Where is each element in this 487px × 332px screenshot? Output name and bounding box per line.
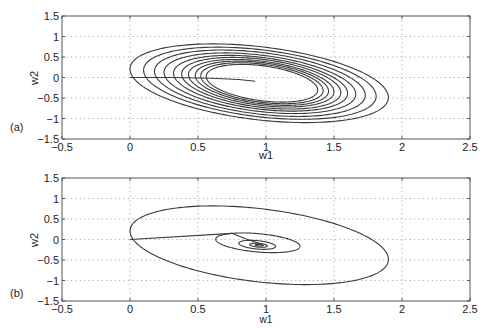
x-tick-label-b: 1	[263, 303, 269, 315]
y-tick-label-b: 0.5	[44, 213, 59, 225]
x-tick-label-a: 0	[127, 141, 133, 153]
y-tick-label-b: 0	[53, 234, 59, 246]
y-tick-label-b: 1	[53, 193, 59, 205]
x-tick-label-b: 0.5	[190, 303, 205, 315]
y-tick-label-b: −0.5	[37, 254, 59, 266]
y-tick-label-b: 1.5	[44, 172, 59, 184]
x-tick-label-a: 1.5	[326, 141, 341, 153]
x-tick-label-a: 2	[399, 141, 405, 153]
trajectory-orbit-9-a	[201, 63, 323, 104]
y-tick-label-a: −1.5	[37, 133, 59, 145]
panel-label-b: (b)	[10, 287, 23, 299]
x-tick-label-b: 2.5	[462, 303, 477, 315]
trajectory-orbit-5-b	[255, 244, 263, 246]
x-tick-label-b: 1.5	[326, 303, 341, 315]
trajectory-orbit-10-a	[206, 64, 318, 102]
figure: (a) w1 w2 −0.500.511.522.51.510.50−0.5−1…	[0, 0, 487, 332]
plot-b: (b) w1 w2 −0.500.511.522.51.510.50−0.5−1…	[10, 172, 478, 325]
trajectory-orbit-4-b	[250, 243, 268, 247]
x-tick-label-b: 2	[399, 303, 405, 315]
x-axis-label-b: w1	[259, 314, 273, 325]
x-tick-label-b: 0	[127, 303, 133, 315]
trajectory-orbit-3-a	[154, 50, 365, 116]
y-axis-label-a: w2	[28, 71, 40, 86]
y-tick-label-a: 0	[53, 72, 59, 84]
y-tick-label-a: −1	[46, 113, 59, 125]
y-axis-label-b: w2	[28, 233, 40, 248]
plot-a: (a) w1 w2 −0.500.511.522.51.510.50−0.5−1…	[10, 10, 478, 161]
y-tick-label-a: −0.5	[37, 92, 59, 104]
y-tick-label-a: 0.5	[44, 51, 59, 63]
y-tick-label-a: 1.5	[44, 10, 59, 22]
y-tick-label-b: −1.5	[37, 295, 59, 307]
x-tick-label-a: 0.5	[190, 141, 205, 153]
x-tick-label-a: 1	[263, 141, 269, 153]
panel-label-a: (a)	[10, 121, 23, 133]
x-tick-label-a: 2.5	[462, 141, 477, 153]
y-tick-label-b: −1	[46, 275, 59, 287]
trajectory-orbit-1-b	[130, 206, 388, 285]
y-tick-label-a: 1	[53, 31, 59, 43]
